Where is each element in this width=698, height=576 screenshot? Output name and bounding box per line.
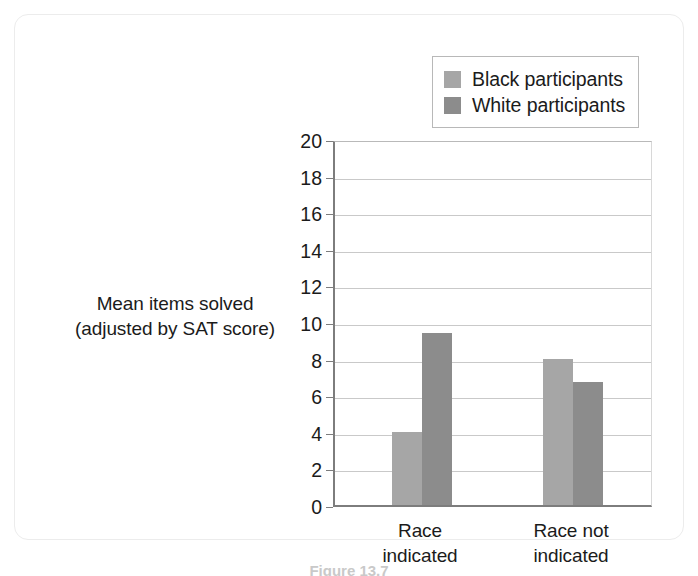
- y-tick-mark: [326, 470, 333, 471]
- y-tick-label: 16: [300, 203, 322, 226]
- y-tick-label: 14: [300, 239, 322, 262]
- legend-label: White participants: [472, 94, 625, 117]
- y-tick-label: 20: [300, 130, 322, 153]
- y-tick-label: 0: [311, 496, 322, 519]
- y-tick-mark: [326, 324, 333, 325]
- y-tick-mark: [326, 397, 333, 398]
- gridline: [335, 471, 651, 472]
- y-tick-mark: [326, 434, 333, 435]
- gridline: [335, 179, 651, 180]
- y-tick-mark: [326, 361, 333, 362]
- y-tick-mark: [326, 251, 333, 252]
- y-tick-mark: [326, 178, 333, 179]
- x-axis-label: Race notindicated: [533, 518, 608, 568]
- y-tick-label: 8: [311, 349, 322, 372]
- y-axis-title-line-2: (adjusted by SAT score): [51, 316, 299, 341]
- gridline: [335, 252, 651, 253]
- legend-item-white-participants: White participants: [444, 92, 625, 118]
- legend-swatch-icon: [444, 97, 461, 114]
- y-tick-label: 10: [300, 313, 322, 336]
- figure-caption: Figure 13.7: [0, 562, 698, 576]
- gridline: [335, 325, 651, 326]
- y-tick-mark: [326, 507, 333, 508]
- gridline: [335, 435, 651, 436]
- bar: [422, 333, 452, 505]
- y-tick-mark: [326, 214, 333, 215]
- y-tick-mark: [326, 141, 333, 142]
- x-axis-label-line: Race: [382, 518, 457, 543]
- y-tick-mark: [326, 287, 333, 288]
- gridline: [335, 362, 651, 363]
- y-tick-label: 12: [300, 276, 322, 299]
- plot-area: [333, 141, 652, 507]
- chart-plot: 20181614121086420 RaceindicatedRace noti…: [333, 141, 652, 507]
- figure-card: Black participants White participants Me…: [14, 14, 684, 540]
- gridline: [335, 215, 651, 216]
- legend-item-black-participants: Black participants: [444, 66, 625, 92]
- x-axis-label-line: Race not: [533, 518, 608, 543]
- legend-label: Black participants: [472, 68, 623, 91]
- y-tick-label: 18: [300, 166, 322, 189]
- bar: [573, 382, 603, 505]
- y-axis-title: Mean items solved (adjusted by SAT score…: [51, 291, 299, 341]
- y-tick-label: 4: [311, 422, 322, 445]
- gridline: [335, 398, 651, 399]
- x-axis-label: Raceindicated: [382, 518, 457, 568]
- chart-legend: Black participants White participants: [432, 56, 639, 128]
- y-tick-label: 6: [311, 386, 322, 409]
- legend-swatch-icon: [444, 71, 461, 88]
- gridline: [335, 288, 651, 289]
- bar: [543, 359, 573, 505]
- y-tick-label: 2: [311, 459, 322, 482]
- bar: [392, 432, 422, 505]
- y-axis-title-line-1: Mean items solved: [51, 291, 299, 316]
